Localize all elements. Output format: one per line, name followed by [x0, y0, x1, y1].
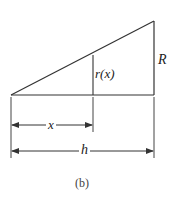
hypotenuse-line	[11, 21, 154, 95]
x-distance-label: x	[46, 118, 56, 131]
r-of-x-label: r(x)	[95, 67, 115, 80]
cone-cross-section-diagram	[0, 0, 169, 198]
triangle	[11, 21, 154, 95]
figure-caption: (b)	[75, 177, 89, 189]
h-height-label: h	[79, 143, 90, 157]
radius-R-label: R	[158, 53, 167, 67]
